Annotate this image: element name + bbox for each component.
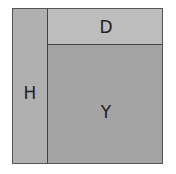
label-h: H bbox=[24, 83, 37, 103]
region-d: D bbox=[48, 9, 162, 45]
label-y: Y bbox=[101, 102, 111, 122]
region-h: H bbox=[13, 9, 48, 163]
square-diagram: H D Y bbox=[12, 8, 163, 164]
label-d: D bbox=[99, 17, 112, 37]
region-y: Y bbox=[48, 45, 162, 163]
